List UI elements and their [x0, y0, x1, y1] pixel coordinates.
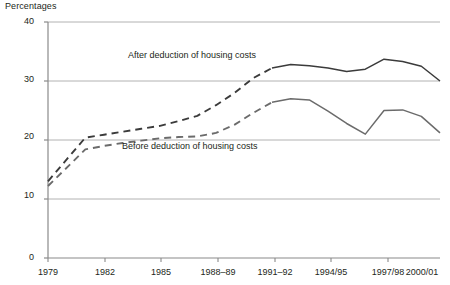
series-line-0-dashed	[48, 68, 272, 181]
y-axis-title: Percentages	[5, 1, 57, 11]
x-tick-label-1982: 1982	[95, 267, 115, 277]
x-tick-label-1994-95: 1994/95	[315, 267, 348, 277]
series-line-0-solid	[272, 59, 440, 81]
y-tick-label-0: 0	[8, 252, 34, 262]
y-tick-label-30: 30	[8, 74, 34, 84]
series-lines	[48, 59, 440, 186]
x-tick-label-1988-89: 1988–89	[200, 267, 235, 277]
x-tick-label-2000-01: 2000/01	[406, 267, 439, 277]
series-line-1-solid	[272, 99, 440, 134]
chart-figure: Percentages 40 30 20 10 0 1979 1982 1985…	[0, 0, 450, 285]
y-tick-label-20: 20	[8, 131, 34, 141]
y-tick-label-10: 10	[8, 190, 34, 200]
series-label-after-deduction: After deduction of housing costs	[128, 50, 256, 60]
series-label-before-deduction: Before deduction of housing costs	[122, 141, 258, 151]
x-tick-label-1979: 1979	[38, 267, 58, 277]
y-tick-label-40: 40	[8, 16, 34, 26]
x-tick-label-1991-92: 1991–92	[257, 267, 292, 277]
x-tick-label-1985: 1985	[151, 267, 171, 277]
x-tick-label-1997-98: 1997/98	[372, 267, 405, 277]
